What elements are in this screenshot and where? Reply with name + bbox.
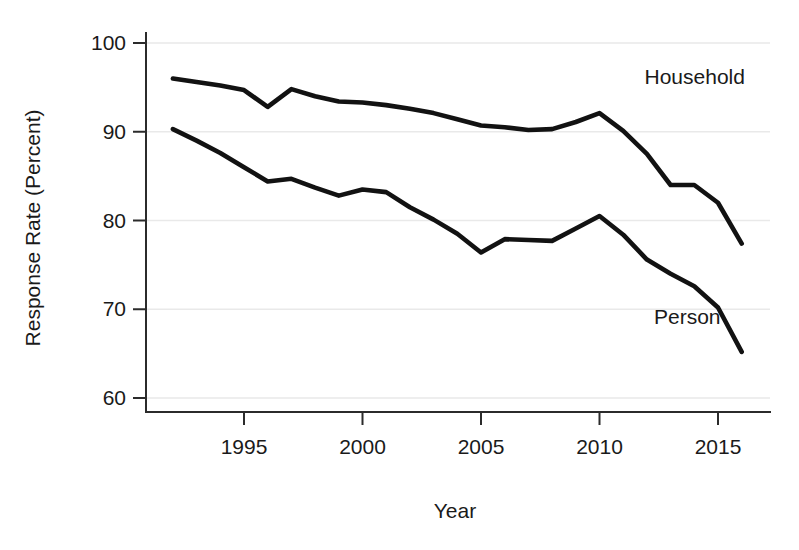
y-tick-label-100: 100	[91, 31, 126, 54]
x-tick-label-1995: 1995	[221, 435, 268, 458]
x-tick-label-2005: 2005	[458, 435, 505, 458]
series-label-person: Person	[654, 305, 721, 328]
y-tick-label-90: 90	[103, 120, 126, 143]
y-tick-label-80: 80	[103, 209, 126, 232]
x-tick-label-2000: 2000	[339, 435, 386, 458]
series-label-household: Household	[645, 65, 745, 88]
y-tick-label-70: 70	[103, 297, 126, 320]
x-tick-label-2015: 2015	[695, 435, 742, 458]
chart-canvas: 60708090100 19952000200520102015 Househo…	[0, 0, 799, 550]
response-rate-line-chart: 60708090100 19952000200520102015 Househo…	[0, 0, 799, 550]
y-tick-label-60: 60	[103, 386, 126, 409]
y-axis-title: Response Rate (Percent)	[21, 110, 44, 347]
x-axis-title: Year	[434, 499, 476, 522]
x-tick-label-2010: 2010	[576, 435, 623, 458]
